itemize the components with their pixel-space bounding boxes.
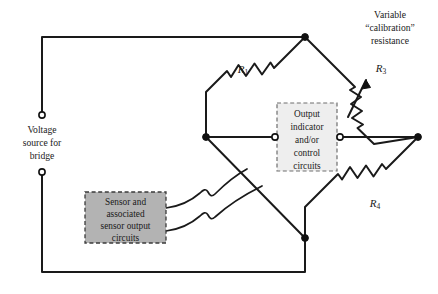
resistor-label-r3: R3 xyxy=(375,62,387,76)
sensor-box-line2: associated xyxy=(106,209,145,219)
output-box-line1: Output xyxy=(294,109,320,119)
bridge-circuit-svg: Voltage source for bridge Variable “cali… xyxy=(0,0,438,294)
sensor-box-line4: circuits xyxy=(112,233,140,243)
supply-top-wire xyxy=(42,37,305,115)
bridge-left-node xyxy=(203,134,210,141)
output-box-line5: circuits xyxy=(293,161,321,171)
circuit-diagram-canvas: Voltage source for bridge Variable “cali… xyxy=(0,0,438,294)
sensor-lead-lower xyxy=(166,186,262,231)
voltage-terminal-top xyxy=(39,112,45,118)
voltage-source-label-line1: Voltage xyxy=(27,124,56,135)
resistor-label-r1: R1 xyxy=(237,63,249,77)
voltage-source-label-line3: bridge xyxy=(30,150,55,161)
voltage-terminal-bottom xyxy=(39,169,45,175)
bridge-right-node xyxy=(415,134,422,141)
resistor-label-r3-subscript: 3 xyxy=(382,67,386,76)
resistor-label-r4: R4 xyxy=(369,197,381,211)
output-box-line2: indicator xyxy=(290,122,324,132)
output-terminal-right xyxy=(337,134,343,140)
resistor-label-r4-subscript: 4 xyxy=(376,202,380,211)
variable-resistance-label-line1: Variable xyxy=(374,9,406,20)
sensor-box-line3: sensor output xyxy=(101,221,151,231)
voltage-source-label-line2: source for xyxy=(23,137,62,148)
output-box-line4: control xyxy=(294,148,321,158)
output-terminal-left xyxy=(272,134,278,140)
resistor-label-r1-subscript: 1 xyxy=(244,68,248,77)
output-box-line3: and/or xyxy=(295,135,320,145)
supply-bottom-wire xyxy=(42,172,305,272)
variable-resistance-label-line2: “calibration” xyxy=(365,22,415,33)
sensor-box-line1: Sensor and xyxy=(105,197,146,207)
bridge-bottom-node xyxy=(302,235,309,242)
variable-resistance-label-line3: resistance xyxy=(371,35,409,46)
bridge-top-node xyxy=(302,34,309,41)
